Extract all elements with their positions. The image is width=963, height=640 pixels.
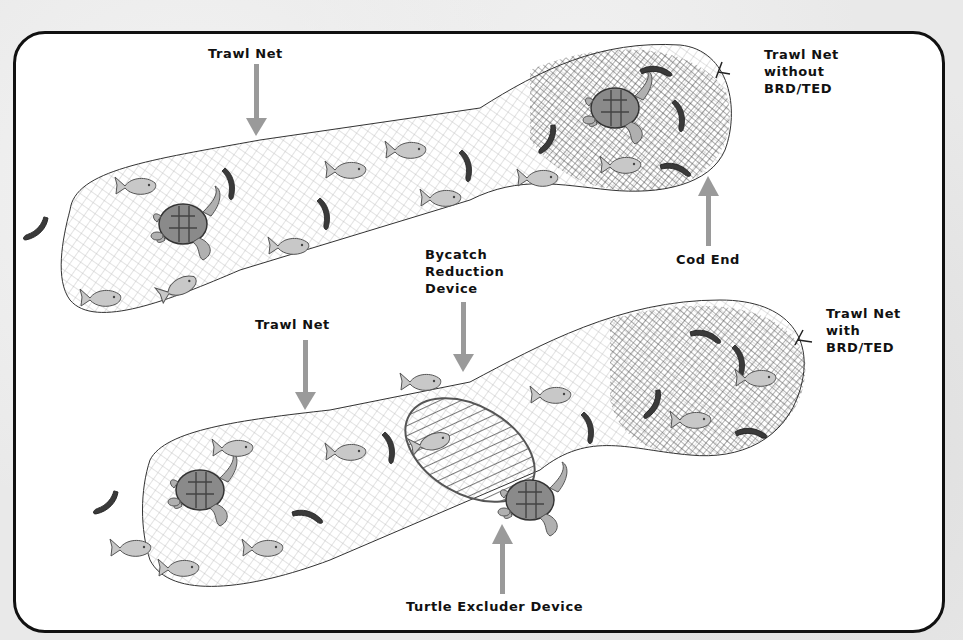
label-top-trawl-net: Trawl Net — [208, 45, 283, 62]
arrow-icon-bottom-trawl — [295, 340, 316, 410]
label-net-without-brd-ted: Trawl Net without BRD/TED — [764, 46, 839, 97]
label-bycatch-reduction-device: Bycatch Reduction Device — [425, 246, 504, 297]
top-trawl-net — [19, 44, 731, 312]
arrow-icon-cod-end — [698, 176, 719, 246]
arrow-icon-brd — [453, 302, 474, 372]
arrow-icon-ted — [492, 524, 513, 594]
label-turtle-excluder-device: Turtle Excluder Device — [406, 598, 583, 615]
label-cod-end: Cod End — [676, 251, 740, 268]
bottom-trawl-net — [89, 300, 812, 586]
label-net-with-brd-ted: Trawl Net with BRD/TED — [826, 305, 901, 356]
label-bottom-trawl-net: Trawl Net — [255, 316, 330, 333]
arrow-icon-top-trawl — [246, 64, 267, 136]
